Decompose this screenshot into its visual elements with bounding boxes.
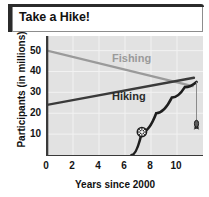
series-label-hiking: Hiking xyxy=(112,90,146,102)
x-tick-label: 10 xyxy=(168,160,184,171)
x-tick-label: 2 xyxy=(64,160,80,171)
y-tick-label: 30 xyxy=(19,86,41,97)
series-label-fishing: Fishing xyxy=(112,52,151,64)
y-tick-label: 40 xyxy=(19,65,41,76)
x-axis-title: Years since 2000 xyxy=(40,179,190,190)
page-title: Take a Hike! xyxy=(19,10,90,24)
y-tick-label: 50 xyxy=(19,45,41,56)
x-tick-label: 6 xyxy=(116,160,132,171)
compass-marker xyxy=(137,127,146,136)
plot-area: FishingHiking xyxy=(46,36,203,156)
y-tick-label: 10 xyxy=(19,128,41,139)
x-tick-label: 8 xyxy=(142,160,158,171)
y-tick-label: 20 xyxy=(19,107,41,118)
x-tick-label: 0 xyxy=(38,160,54,171)
x-tick-label: 4 xyxy=(90,160,106,171)
chart-figure: Take a Hike! Participants (in millions) … xyxy=(0,0,209,197)
plot-canvas: FishingHiking xyxy=(47,36,203,155)
lure-marker xyxy=(194,120,199,129)
